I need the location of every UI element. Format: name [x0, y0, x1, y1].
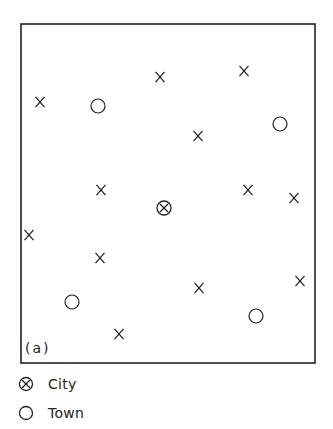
legend-label-city: City	[48, 376, 77, 392]
village-marker	[96, 253, 105, 263]
town-marker	[91, 99, 105, 113]
map-frame	[21, 24, 315, 363]
village-marker	[244, 185, 253, 195]
village-marker	[194, 131, 203, 141]
legend-item-city: City	[18, 376, 77, 392]
settlement-map	[0, 0, 333, 429]
village-marker	[240, 66, 249, 76]
village-marker	[290, 193, 299, 203]
city-symbol-icon	[18, 376, 34, 392]
city-marker	[157, 201, 171, 215]
village-marker	[115, 329, 124, 339]
panel-label: (a)	[25, 340, 51, 356]
village-marker	[195, 283, 204, 293]
town-marker	[249, 309, 263, 323]
legend-item-town: Town	[18, 405, 84, 421]
town-symbol-icon	[18, 405, 34, 421]
legend-label-town: Town	[48, 405, 84, 421]
village-marker	[25, 230, 34, 240]
village-marker	[296, 276, 305, 286]
village-marker	[97, 185, 106, 195]
village-marker	[156, 72, 165, 82]
village-marker	[36, 97, 45, 107]
town-marker	[65, 295, 79, 309]
town-marker	[273, 117, 287, 131]
